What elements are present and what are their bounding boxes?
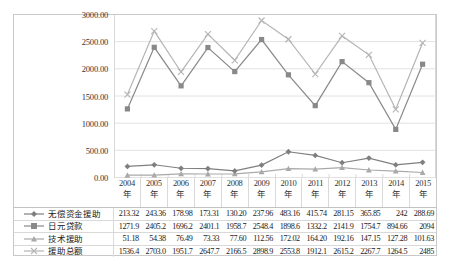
legend-entry[interactable]: 无偿资金援助 [14, 208, 114, 220]
data-point-cross [393, 106, 399, 112]
table-cell: 2548.4 [248, 221, 275, 233]
plot-area [114, 15, 436, 178]
data-point-diamond [232, 168, 238, 174]
table-cell: 1332.2 [302, 221, 329, 233]
table-cell: 365.85 [355, 208, 382, 220]
table-cell: 415.74 [302, 208, 329, 220]
table-cell: 242 [382, 208, 409, 220]
table-cell: 2166.5 [221, 246, 248, 258]
data-point-cross [124, 92, 130, 98]
table-row: 技术援助51.1854.3876.4973.3377.60112.56172.0… [14, 232, 436, 245]
table-cell: 127.28 [382, 233, 409, 245]
table-cell: 73.33 [194, 233, 221, 245]
data-point-diamond [31, 211, 37, 217]
table-cell: 76.49 [168, 233, 195, 245]
data-table: 无偿资金援助213.32243.36178.98173.31130.20237.… [14, 207, 436, 257]
legend-entry[interactable]: 技术援助 [14, 233, 114, 245]
x-axis-tick-label: 2013年 [355, 178, 382, 207]
table-row: 日元贷款1271.92405.21696.22401.11958.72548.4… [14, 220, 436, 233]
table-cell: 894.66 [382, 221, 409, 233]
table-cell: 2141.9 [329, 221, 356, 233]
table-cell: 281.15 [329, 208, 356, 220]
table-cell: 2647.7 [194, 246, 221, 258]
data-point-cross [339, 33, 345, 39]
table-cell: 51.18 [114, 233, 141, 245]
y-axis: 0.00500.001000.001500.002000.002500.0030… [14, 15, 111, 178]
legend-marker-diamond-icon [23, 209, 45, 219]
series-label: 技术援助 [45, 234, 83, 244]
legend-marker-cross-icon [23, 246, 45, 256]
data-point-diamond [339, 160, 345, 166]
y-axis-tick-label: 3000.00 [82, 11, 108, 20]
data-point-cross [366, 52, 372, 58]
data-point-square [259, 37, 264, 42]
data-point-square [178, 83, 183, 88]
table-cell: 2405.2 [141, 221, 168, 233]
table-cell: 173.31 [194, 208, 221, 220]
legend-marker-square-icon [23, 221, 45, 231]
x-axis-tick-label: 2004年 [114, 178, 140, 207]
series-line [127, 40, 422, 130]
table-cell: 147.15 [355, 233, 382, 245]
chart-svg [114, 15, 436, 178]
data-point-square [393, 127, 398, 132]
x-axis-tick-label: 2007年 [194, 178, 221, 207]
x-axis-tick-label: 2005年 [140, 178, 167, 207]
legend-entry[interactable]: 日元贷款 [14, 221, 114, 233]
data-point-cross [259, 17, 265, 23]
table-cell: 164.20 [302, 233, 329, 245]
table-cell: 2485 [409, 246, 436, 258]
table-cell: 1696.2 [168, 221, 195, 233]
table-cell: 243.36 [141, 208, 168, 220]
legend-marker-triangle-icon [23, 234, 45, 244]
data-point-diamond [286, 149, 292, 155]
data-point-cross [420, 40, 426, 46]
y-axis-tick-label: 2500.00 [82, 38, 108, 47]
data-point-square [205, 45, 210, 50]
y-axis-tick-label: 1000.00 [82, 119, 108, 128]
x-axis-tick-label: 2008年 [221, 178, 248, 207]
data-point-cross [232, 57, 238, 63]
data-point-diamond [259, 162, 265, 168]
data-point-diamond [420, 159, 426, 165]
y-axis-tick-label: 2000.00 [82, 65, 108, 74]
table-cell: 130.20 [221, 208, 248, 220]
data-point-diamond [366, 155, 372, 161]
table-cell: 213.32 [114, 208, 141, 220]
data-point-diamond [125, 164, 131, 170]
data-point-cross [178, 69, 184, 75]
series-label: 无偿资金援助 [45, 209, 101, 219]
table-cell: 77.60 [221, 233, 248, 245]
table-cell: 2703.0 [141, 246, 168, 258]
legend-entry[interactable]: 援助总额 [14, 246, 114, 258]
table-cell: 237.96 [248, 208, 275, 220]
table-cell: 2553.8 [275, 246, 302, 258]
table-row: 援助总额1536.42703.01951.72647.72166.52898.9… [14, 245, 436, 258]
table-cell: 178.98 [168, 208, 195, 220]
table-cell: 1271.9 [114, 221, 141, 233]
table-cell: 172.02 [275, 233, 302, 245]
table-cell: 112.56 [248, 233, 275, 245]
table-cell: 101.63 [409, 233, 436, 245]
table-cell: 1958.7 [221, 221, 248, 233]
x-axis-tick-label: 2006年 [167, 178, 194, 207]
data-point-diamond [178, 165, 184, 171]
chart-container: 0.00500.001000.001500.002000.002500.0030… [13, 14, 437, 256]
x-axis-tick-label: 2014年 [382, 178, 409, 207]
table-cell: 1951.7 [168, 246, 195, 258]
data-point-diamond [393, 162, 399, 168]
data-point-square [366, 80, 371, 85]
table-cell: 1898.6 [275, 221, 302, 233]
data-point-diamond [312, 153, 318, 159]
x-axis-tick-label: 2010年 [275, 178, 302, 207]
series-line [127, 152, 422, 171]
data-point-square [125, 106, 130, 111]
data-point-square [339, 59, 344, 64]
table-cell: 483.16 [275, 208, 302, 220]
series-label: 日元贷款 [45, 221, 83, 231]
x-axis-tick-label: 2012年 [328, 178, 355, 207]
table-row: 无偿资金援助213.32243.36178.98173.31130.20237.… [14, 207, 436, 220]
table-cell: 2094 [409, 221, 436, 233]
x-axis: 2004年2005年2006年2007年2008年2009年2010年2011年… [114, 178, 436, 207]
x-axis-tick-label: 2009年 [248, 178, 275, 207]
